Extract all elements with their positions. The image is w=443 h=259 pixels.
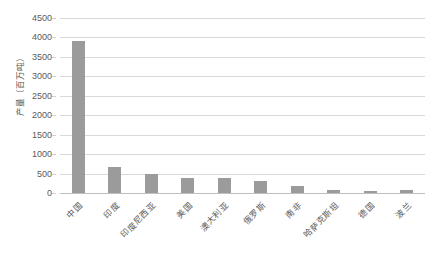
x-tick-label: 澳大利亚 [197,199,231,233]
y-tick-label: 3000 [32,71,52,81]
y-tick-mark [52,37,56,38]
y-tick-label: 4000 [32,32,52,42]
y-tick-mark [52,115,56,116]
y-tick-mark [52,76,56,77]
x-tick-label: 南非 [283,199,304,220]
bar [181,178,194,193]
y-tick-mark [52,135,56,136]
y-tick-mark [52,57,56,58]
bar [218,178,231,193]
x-axis-tick-labels: 中国印度印度尼西亚美国澳大利亚俄罗斯南非哈萨克斯坦德国波兰 [60,193,425,259]
x-tick-label: 俄罗斯 [240,199,268,227]
y-tick-mark [52,96,56,97]
bar-series [60,18,425,193]
y-tick-label: 4500 [32,13,52,23]
x-tick-label: 波兰 [392,199,413,220]
y-tick-label: 3500 [32,52,52,62]
bar [145,174,158,193]
x-tick-label: 中国 [64,199,85,220]
y-tick-label: 500 [37,169,52,179]
bar [72,41,85,193]
plot-area [60,18,425,193]
y-tick-label: 1000 [32,149,52,159]
y-tick-label: 2000 [32,110,52,120]
x-tick-label: 美国 [173,199,194,220]
x-tick-label: 哈萨克斯坦 [300,199,340,239]
y-tick-label: 2500 [32,91,52,101]
x-tick-label: 德国 [356,199,377,220]
bar-chart: 产量（百万吨） 45004000350030002500200015001000… [0,0,443,259]
y-tick-mark [52,193,56,194]
y-axis-tick-labels: 450040003500300025002000150010005000 [0,18,56,193]
y-tick-label: 1500 [32,130,52,140]
bar [108,167,121,193]
bar [254,181,267,193]
bar [291,186,304,193]
x-tick-label: 印度 [100,199,121,220]
x-tick-label: 印度尼西亚 [117,199,157,239]
y-tick-mark [52,174,56,175]
y-tick-mark [52,18,56,19]
y-tick-mark [52,154,56,155]
